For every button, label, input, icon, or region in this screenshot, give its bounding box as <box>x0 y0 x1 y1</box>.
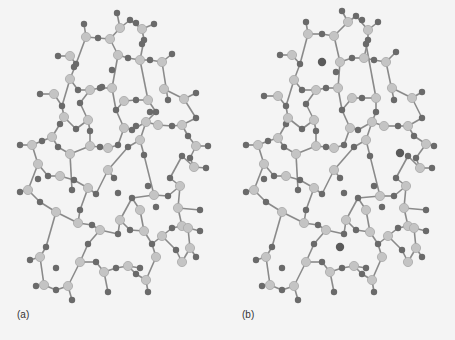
small-atom <box>205 143 211 149</box>
small-atom <box>125 55 131 61</box>
small-atom <box>393 49 399 55</box>
large-atom <box>63 281 72 290</box>
small-atom <box>113 107 119 113</box>
small-atom <box>59 103 65 109</box>
large-atom <box>329 143 338 152</box>
bond <box>140 60 148 100</box>
small-atom <box>133 97 139 103</box>
small-atom <box>53 287 59 293</box>
small-atom <box>141 152 147 158</box>
large-atom <box>83 115 92 124</box>
large-atom <box>185 243 194 252</box>
small-atom <box>355 127 361 133</box>
large-atom <box>367 275 376 284</box>
small-atom <box>55 53 61 59</box>
large-atom <box>39 280 48 289</box>
large-atom <box>349 261 358 270</box>
small-atom <box>281 144 287 150</box>
small-atom <box>353 227 359 233</box>
small-atom <box>169 123 175 129</box>
large-atom <box>65 74 74 83</box>
small-atom <box>37 199 43 205</box>
small-atom <box>71 64 77 70</box>
large-atom <box>363 25 372 34</box>
large-atom <box>157 57 166 66</box>
large-atom <box>115 23 124 32</box>
large-atom <box>341 215 350 224</box>
small-atom <box>127 17 133 23</box>
small-atom <box>69 187 75 193</box>
large-atom <box>253 140 262 149</box>
small-atom <box>423 207 429 213</box>
small-atom <box>313 128 319 134</box>
small-atom <box>87 128 93 134</box>
small-atom <box>73 126 79 132</box>
small-atom <box>395 123 401 129</box>
small-atom <box>367 153 373 159</box>
small-atom <box>111 175 117 181</box>
large-atom <box>259 159 268 168</box>
large-atom <box>81 32 90 41</box>
large-atom <box>359 53 368 62</box>
small-atom <box>69 297 75 303</box>
large-atom <box>273 133 282 142</box>
large-atom <box>153 120 162 129</box>
large-atom <box>277 207 286 216</box>
large-atom <box>47 132 56 141</box>
large-atom <box>343 17 352 26</box>
large-atom <box>325 267 334 276</box>
large-atom <box>379 121 388 130</box>
small-atom <box>197 207 203 213</box>
small-atom <box>125 144 131 150</box>
large-atom <box>309 115 318 124</box>
small-atom <box>77 207 83 213</box>
small-atom <box>17 189 23 195</box>
small-atom <box>331 289 337 295</box>
small-atom <box>279 287 285 293</box>
small-atom <box>203 165 209 171</box>
small-atom <box>85 241 91 247</box>
large-atom <box>115 215 124 224</box>
small-atom <box>27 257 33 263</box>
large-atom <box>371 93 380 102</box>
small-atom <box>355 195 361 201</box>
large-atom <box>119 123 128 132</box>
small-atom <box>411 133 417 139</box>
small-atom <box>399 247 405 253</box>
large-atom <box>265 280 274 289</box>
small-atom <box>147 109 153 115</box>
small-atom <box>277 52 283 58</box>
large-atom <box>85 85 94 94</box>
large-atom <box>299 218 308 227</box>
large-atom <box>421 139 430 148</box>
small-atom <box>297 177 303 183</box>
small-atom <box>295 187 301 193</box>
small-atom <box>89 222 95 228</box>
large-atom <box>377 252 386 261</box>
large-atom <box>309 183 318 192</box>
large-atom <box>151 252 160 261</box>
large-atom <box>159 84 168 93</box>
panel-b-label: (b) <box>242 309 254 320</box>
small-atom <box>371 289 377 295</box>
small-atom <box>359 95 365 101</box>
small-atom <box>197 228 203 234</box>
large-atom <box>333 83 342 92</box>
small-atom <box>341 190 347 196</box>
small-atom <box>193 115 199 121</box>
small-atom <box>375 241 381 247</box>
small-atom <box>319 259 325 265</box>
panel-a-label: (a) <box>17 309 29 320</box>
small-atom <box>431 143 437 149</box>
molecular-network-diagram-b <box>228 0 455 340</box>
small-atom <box>339 107 345 113</box>
small-atom <box>43 244 49 250</box>
large-atom <box>415 163 424 172</box>
small-atom <box>39 138 45 144</box>
small-atom <box>33 283 39 289</box>
large-atom <box>173 203 182 212</box>
large-atom <box>75 257 84 266</box>
small-atom <box>165 97 171 103</box>
large-atom <box>135 135 144 144</box>
small-atom <box>57 121 63 127</box>
